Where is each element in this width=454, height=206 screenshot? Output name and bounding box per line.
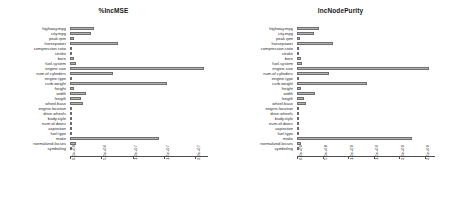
x-tick-label: 1.0e+09 [350, 145, 354, 160]
bar [297, 107, 299, 110]
category-label: drive.wheels [0, 112, 66, 116]
category-label: peak.rpm [227, 37, 293, 41]
bar [70, 47, 72, 50]
category-label: bore [0, 57, 66, 61]
category-label: horsepower [0, 42, 66, 46]
bar [70, 102, 83, 105]
category-label: num.of.doors [227, 122, 293, 126]
bar [70, 27, 94, 30]
category-label: height [227, 87, 293, 91]
bar [70, 137, 159, 140]
x-tick-label: 1.5e+07 [166, 145, 170, 160]
bar [70, 37, 74, 40]
category-label: curb.weight [227, 82, 293, 86]
plot-area-inc-mse [70, 26, 208, 151]
category-label: highway.mpg [0, 27, 66, 31]
bar [297, 42, 333, 45]
bar [297, 117, 299, 120]
bar [297, 37, 300, 40]
category-label: symboling [227, 147, 293, 151]
category-label: aspiration [227, 127, 293, 131]
bar [70, 92, 86, 95]
x-tick-label: 2.5e+09 [426, 145, 430, 160]
bar [297, 47, 299, 50]
bar [70, 97, 81, 100]
x-tick-label: 5.0e+08 [324, 145, 328, 160]
category-label: length [0, 97, 66, 101]
category-label: make [0, 137, 66, 141]
category-label: engine.type [0, 77, 66, 81]
bar [297, 137, 412, 140]
bar [297, 77, 299, 80]
bar [297, 62, 302, 65]
category-label: engine.location [227, 107, 293, 111]
x-tick-label: 1.5e+09 [375, 145, 379, 160]
category-label: symboling [0, 147, 66, 151]
category-label: curb.weight [0, 82, 66, 86]
category-label: wheel.base [0, 102, 66, 106]
category-label: horsepower [227, 42, 293, 46]
bar [70, 57, 74, 60]
bar [297, 92, 315, 95]
category-label: body.style [0, 117, 66, 121]
bar [70, 122, 72, 125]
x-tick-label: 2.0e+07 [197, 145, 201, 160]
bar [70, 82, 167, 85]
category-labels-inc-mse: highway.mpgcity.mpgpeak.rpmhorsepowercom… [0, 26, 68, 151]
x-tick-label: 0.0e+00 [72, 145, 76, 160]
bar [70, 32, 91, 35]
category-label: normalized.losses [0, 142, 66, 146]
bar [297, 52, 299, 55]
bar [297, 87, 301, 90]
bar [70, 42, 118, 45]
x-tick-label: 2.0e+09 [401, 145, 405, 160]
x-tick-label: 0.0e+00 [299, 145, 303, 160]
variable-importance-figure: %IncMSE highway.mpgcity.mpgpeak.rpmhorse… [0, 0, 454, 206]
category-label: body.style [227, 117, 293, 121]
category-label: city.mpg [227, 32, 293, 36]
category-label: aspiration [0, 127, 66, 131]
category-label: fuel.system [227, 62, 293, 66]
category-label: engine.size [227, 67, 293, 71]
chart-title-inc-node-purity: IncNodePurity [227, 7, 454, 15]
bar [70, 127, 72, 130]
bar [297, 67, 429, 70]
category-label: wheel.base [227, 102, 293, 106]
chart-title-inc-mse: %IncMSE [0, 7, 227, 15]
category-label: fuel.type [227, 132, 293, 136]
bar [297, 57, 301, 60]
x-tick-label: 1.0e+07 [134, 145, 138, 160]
category-label: bore [227, 57, 293, 61]
bar [70, 67, 204, 70]
category-label: num.of.doors [0, 122, 66, 126]
category-label: fuel.system [0, 62, 66, 66]
bar [70, 87, 74, 90]
category-label: width [0, 92, 66, 96]
category-label: height [0, 87, 66, 91]
bar [297, 132, 299, 135]
category-label: width [227, 92, 293, 96]
x-tick-label: 5.0e+06 [103, 145, 107, 160]
category-label: drive.wheels [227, 112, 293, 116]
bar [70, 52, 72, 55]
category-label: compression.ratio [227, 47, 293, 51]
bar [70, 112, 72, 115]
bar [70, 117, 72, 120]
category-label: highway.mpg [227, 27, 293, 31]
category-label: length [227, 97, 293, 101]
plot-area-inc-node-purity [297, 26, 435, 151]
bar [297, 127, 299, 130]
panel-inc-mse: %IncMSE highway.mpgcity.mpgpeak.rpmhorse… [0, 0, 227, 206]
bar [297, 112, 299, 115]
category-label: num.of.cylinders [0, 72, 66, 76]
bar [70, 132, 72, 135]
category-labels-inc-node-purity: highway.mpgcity.mpgpeak.rpmhorsepowercom… [227, 26, 295, 151]
bar [70, 62, 76, 65]
category-label: city.mpg [0, 32, 66, 36]
category-label: num.of.cylinders [227, 72, 293, 76]
panel-inc-node-purity: IncNodePurity highway.mpgcity.mpgpeak.rp… [227, 0, 454, 206]
category-label: make [227, 137, 293, 141]
category-label: fuel.type [0, 132, 66, 136]
bar [70, 77, 72, 80]
x-axis-inc-mse [70, 156, 208, 157]
